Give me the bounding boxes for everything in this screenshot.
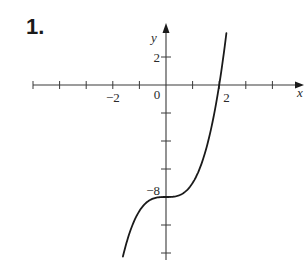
y-axis <box>161 23 171 260</box>
x-tick-label: 0 <box>154 87 161 102</box>
y-axis-label: y <box>149 30 157 45</box>
y-axis-arrow-icon <box>163 23 170 33</box>
cubic-curve <box>123 33 226 256</box>
x-tick-label: 2 <box>223 90 230 105</box>
x-axis-label: x <box>296 85 303 100</box>
x-axis <box>33 81 304 89</box>
y-tick-label: 2 <box>154 50 161 65</box>
x-tick-label: −2 <box>106 90 120 105</box>
cubic-graph: −2022−8 y x <box>0 0 304 260</box>
y-tick-label: −8 <box>146 183 160 198</box>
tick-labels: −2022−8 <box>106 50 230 198</box>
